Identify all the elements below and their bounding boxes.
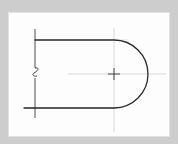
break-symbol xyxy=(33,68,38,76)
sketch-canvas xyxy=(0,0,178,144)
